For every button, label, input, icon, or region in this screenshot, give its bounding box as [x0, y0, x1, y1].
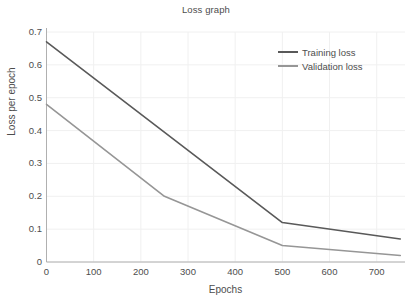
- legend-item-training-loss[interactable]: Training loss: [278, 45, 363, 59]
- y-axis-tick-labels: 00.10.20.30.40.50.60.7: [12, 0, 42, 302]
- x-tick-label: 500: [262, 266, 302, 277]
- legend-item-validation-loss[interactable]: Validation loss: [278, 59, 363, 73]
- x-tick-label: 100: [74, 266, 114, 277]
- series-line-validation-loss: [47, 104, 401, 255]
- y-tick-label: 0.1: [16, 223, 42, 234]
- x-tick-label: 400: [215, 266, 255, 277]
- y-tick-label: 0.5: [16, 92, 42, 103]
- y-tick-label: 0.3: [16, 157, 42, 168]
- x-tick-label: 0: [27, 266, 67, 277]
- x-axis-tick-labels: 0100200300400500600700: [0, 266, 412, 282]
- loss-graph-chart: Loss graph Loss per epoch Epochs 00.10.2…: [0, 0, 412, 302]
- legend-line-swatch: [278, 51, 298, 53]
- y-tick-label: 0.7: [16, 26, 42, 37]
- x-tick-label: 200: [121, 266, 161, 277]
- y-tick-label: 0.6: [16, 59, 42, 70]
- legend-line-swatch: [278, 65, 298, 67]
- legend-label: Validation loss: [302, 61, 363, 72]
- x-tick-label: 600: [310, 266, 350, 277]
- x-tick-label: 300: [168, 266, 208, 277]
- chart-legend: Training lossValidation loss: [278, 45, 363, 73]
- data-series: [47, 42, 401, 256]
- legend-label: Training loss: [302, 47, 356, 58]
- y-tick-label: 0.2: [16, 190, 42, 201]
- x-tick-label: 700: [357, 266, 397, 277]
- y-tick-label: 0.4: [16, 125, 42, 136]
